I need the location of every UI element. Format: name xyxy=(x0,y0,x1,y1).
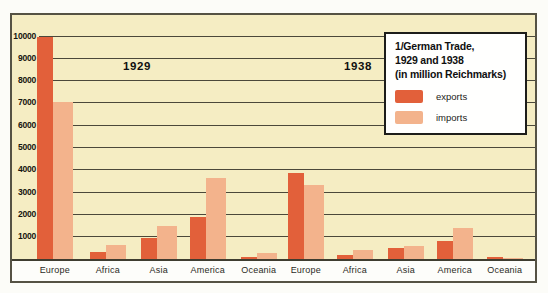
category-label-europe-1938: Europe xyxy=(291,265,321,275)
bar-imports-africa-1938 xyxy=(353,250,373,259)
bar-imports-america-1938 xyxy=(453,228,473,259)
gridline-5000 xyxy=(39,147,535,148)
category-label-oceania-1938: Oceania xyxy=(487,265,522,275)
y-tick-7000: 7000 xyxy=(12,99,36,108)
chart-title-line-3: (in million Reichmarks) xyxy=(395,68,518,82)
period-label-1929: 1929 xyxy=(107,60,167,72)
bar-imports-asia-1938 xyxy=(404,246,424,259)
y-tick-4000: 4000 xyxy=(12,166,36,175)
category-label-asia-1938: Asia xyxy=(397,265,415,275)
bar-exports-asia-1929 xyxy=(141,238,157,259)
period-label-1938: 1938 xyxy=(328,60,388,72)
y-tick-9000: 9000 xyxy=(12,54,36,63)
bar-exports-america-1938 xyxy=(437,241,453,259)
gridline-4000 xyxy=(39,169,535,170)
chart-title-line-2: 1929 and 1938 xyxy=(395,54,518,68)
bar-exports-europe-1938 xyxy=(288,173,304,259)
legend-item-imports: imports xyxy=(395,111,518,124)
y-tick-2000: 2000 xyxy=(12,210,36,219)
bar-exports-asia-1938 xyxy=(388,248,404,259)
category-axis: EuropeAfricaAsiaAmericaOceaniaEuropeAfri… xyxy=(12,259,535,281)
bar-exports-america-1929 xyxy=(190,217,206,259)
y-tick-8000: 8000 xyxy=(12,76,36,85)
bar-imports-america-1929 xyxy=(206,178,226,259)
bar-imports-africa-1929 xyxy=(106,245,126,259)
category-label-america-1929: America xyxy=(191,265,225,275)
gridline-2000 xyxy=(39,214,535,215)
imports-label: imports xyxy=(436,112,467,123)
exports-swatch xyxy=(395,90,423,103)
bar-imports-europe-1938 xyxy=(304,185,324,259)
bar-imports-europe-1929 xyxy=(53,102,73,259)
category-label-america-1938: America xyxy=(438,265,472,275)
bar-exports-africa-1929 xyxy=(90,252,106,259)
chart-title-line-1: 1/German Trade, xyxy=(395,40,518,54)
bar-imports-asia-1929 xyxy=(157,226,177,259)
category-label-asia-1929: Asia xyxy=(150,265,168,275)
category-label-europe-1929: Europe xyxy=(40,265,70,275)
y-tick-1000: 1000 xyxy=(12,232,36,241)
y-tick-10000: 10000 xyxy=(12,32,36,41)
german-trade-bar-chart: 1929 1938 1/German Trade, 1929 and 1938 … xyxy=(10,13,537,283)
bar-exports-europe-1929 xyxy=(37,37,53,259)
category-label-oceania-1929: Oceania xyxy=(241,265,276,275)
plot-area: 1929 1938 1/German Trade, 1929 and 1938 … xyxy=(12,15,535,259)
gridline-3000 xyxy=(39,192,535,193)
category-label-africa-1929: Africa xyxy=(96,265,120,275)
category-label-africa-1938: Africa xyxy=(343,265,367,275)
exports-label: exports xyxy=(436,91,467,102)
legend-box: 1/German Trade, 1929 and 1938 (in millio… xyxy=(384,32,527,135)
y-tick-5000: 5000 xyxy=(12,143,36,152)
y-tick-6000: 6000 xyxy=(12,121,36,130)
legend-item-exports: exports xyxy=(395,90,518,103)
imports-swatch xyxy=(395,111,423,124)
chart-title: 1/German Trade, 1929 and 1938 (in millio… xyxy=(395,40,518,82)
y-tick-3000: 3000 xyxy=(12,188,36,197)
